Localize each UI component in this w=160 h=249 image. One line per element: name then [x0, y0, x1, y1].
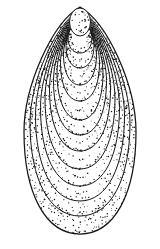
illustration-canvas [0, 0, 160, 249]
shell-illustration [0, 0, 160, 249]
